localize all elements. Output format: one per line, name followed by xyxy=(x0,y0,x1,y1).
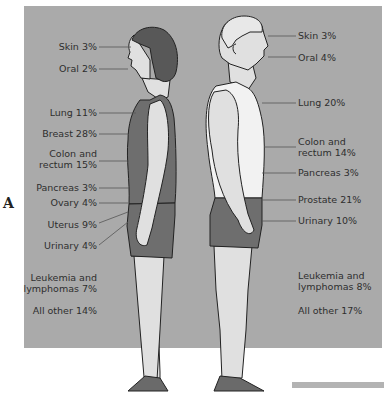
label-male-all-other: All other 17% xyxy=(298,305,362,316)
label-female-urinary: Urinary 4% xyxy=(44,240,97,251)
label-female-leukemia-lymphomas: Leukemia and lymphomas 7% xyxy=(24,272,98,294)
label-female-ovary: Ovary 4% xyxy=(50,197,97,208)
label-male-lung: Lung 20% xyxy=(298,97,345,108)
label-male-prostate: Prostate 21% xyxy=(298,194,361,205)
label-line1: Colon and xyxy=(39,148,97,159)
label-female-colon-rectum: Colon and rectum 15% xyxy=(39,148,97,170)
bottom-divider-bar xyxy=(292,382,384,388)
label-male-pancreas: Pancreas 3% xyxy=(298,167,359,178)
label-female-skin: Skin 3% xyxy=(59,41,97,52)
male-leader-lines xyxy=(262,36,296,221)
label-female-lung: Lung 11% xyxy=(50,107,97,118)
label-line1: Leukemia and xyxy=(24,272,98,283)
label-male-oral: Oral 4% xyxy=(298,52,336,63)
label-line2: rectum 15% xyxy=(39,159,97,170)
label-line1: Leukemia and xyxy=(298,270,372,281)
label-line2: rectum 14% xyxy=(298,147,356,158)
label-female-all-other: All other 14% xyxy=(33,305,97,316)
label-male-colon-rectum: Colon and rectum 14% xyxy=(298,136,356,158)
label-male-urinary: Urinary 10% xyxy=(298,215,357,226)
label-line1: Colon and xyxy=(298,136,356,147)
label-female-uterus: Uterus 9% xyxy=(48,219,98,230)
label-female-pancreas: Pancreas 3% xyxy=(36,182,97,193)
male-figure xyxy=(206,16,268,391)
label-female-breast: Breast 28% xyxy=(42,128,97,139)
label-male-skin: Skin 3% xyxy=(298,30,336,41)
female-figure xyxy=(127,27,178,391)
label-line2: lymphomas 7% xyxy=(24,283,98,294)
label-male-leukemia-lymphomas: Leukemia and lymphomas 8% xyxy=(298,270,372,292)
label-line2: lymphomas 8% xyxy=(298,281,372,292)
label-female-oral: Oral 2% xyxy=(59,63,97,74)
